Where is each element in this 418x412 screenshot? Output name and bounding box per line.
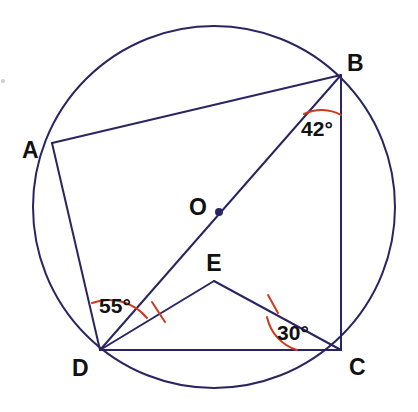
angle-label-55: 55° (99, 294, 131, 317)
geometry-figure: A B C D E O 42° 55° 30° (0, 0, 418, 412)
vertex-label-B: B (347, 50, 364, 76)
angle-label-42: 42° (301, 117, 333, 140)
angle-label-30: 30° (277, 321, 309, 344)
center-point-dot (215, 208, 223, 216)
segment-AB (52, 75, 341, 143)
scan-speck (1, 79, 5, 83)
vertex-label-E: E (206, 250, 221, 276)
vertex-label-D: D (72, 355, 89, 381)
vertex-label-A: A (22, 137, 39, 163)
center-point-label: O (189, 194, 207, 220)
vertex-label-C: C (349, 354, 366, 380)
segment-AD (52, 143, 100, 350)
geometry-canvas: A B C D E O 42° 55° 30° (0, 0, 418, 412)
